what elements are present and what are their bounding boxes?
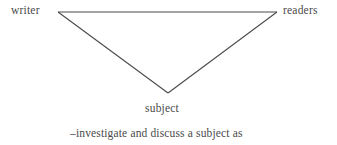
edge-readers-subject: [168, 12, 277, 93]
triangle-shape: [0, 0, 337, 145]
edge-writer-subject: [58, 12, 168, 93]
figure-caption: –investigate and discuss a subject as: [70, 126, 243, 140]
node-label-writer: writer: [11, 4, 40, 17]
node-label-readers: readers: [283, 4, 318, 17]
rhetorical-triangle-figure: writer readers subject –investigate and …: [0, 0, 337, 145]
node-label-subject: subject: [145, 102, 179, 115]
